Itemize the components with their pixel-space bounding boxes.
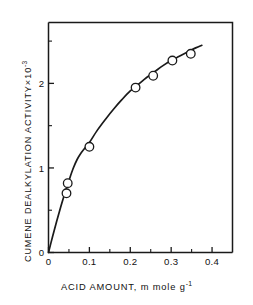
data-point-marker bbox=[62, 189, 71, 198]
data-point-marker bbox=[131, 83, 140, 92]
data-point-marker bbox=[63, 179, 72, 188]
data-point-marker bbox=[85, 143, 94, 152]
x-tick-label: 0.1 bbox=[82, 256, 96, 267]
plot-area: 00.10.20.30.4012 bbox=[0, 0, 253, 305]
x-tick-label: 0 bbox=[46, 256, 52, 267]
axes-frame bbox=[49, 23, 233, 253]
figure: CUMENE DEALKYLATION ACTIVITY×10-3 ACID A… bbox=[0, 0, 253, 305]
y-tick-label: 0 bbox=[39, 247, 44, 258]
data-curve bbox=[49, 45, 202, 252]
data-point-marker bbox=[186, 49, 195, 58]
data-point-marker bbox=[149, 71, 158, 80]
y-tick-label: 1 bbox=[39, 163, 44, 174]
x-tick-label: 0.2 bbox=[123, 256, 137, 267]
x-tick-label: 0.3 bbox=[164, 256, 178, 267]
tick-labels: 00.10.20.30.4012 bbox=[39, 78, 220, 267]
data-markers bbox=[62, 49, 195, 197]
x-tick-label: 0.4 bbox=[205, 256, 220, 267]
y-tick-label: 2 bbox=[39, 78, 44, 89]
tick-marks bbox=[49, 41, 213, 252]
data-point-marker bbox=[168, 56, 177, 65]
